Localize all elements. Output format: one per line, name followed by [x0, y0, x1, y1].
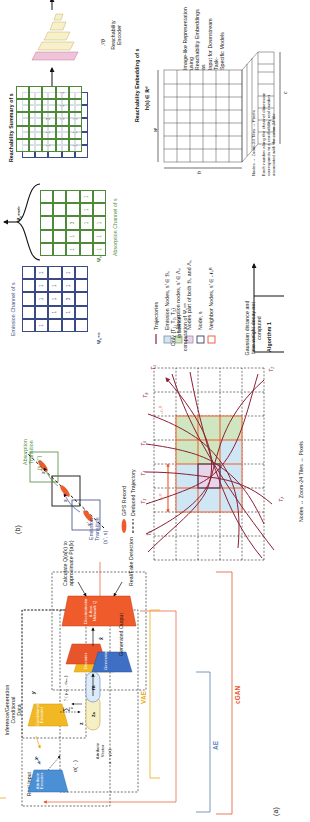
absorption-channel-cell: 1: [93, 243, 106, 256]
summary-absorption-cell: 3: [42, 112, 55, 125]
trajectory-label-T7: T₇: [278, 497, 284, 502]
brace-cgan-label: cGAN: [234, 686, 242, 704]
algorithm-1-label: Algorithm 1: [266, 322, 272, 352]
summary-absorption-cell: [42, 99, 55, 112]
summary-absorption-cell: [29, 139, 42, 152]
encoder-to-embedding-arrow: [46, 0, 60, 10]
summary-absorption-cell: 1: [69, 112, 82, 125]
summary-absorption-cell: [56, 139, 69, 152]
real-fake-detection-label: Real/Fake Detection: [128, 537, 134, 586]
only-trajectories-note: Only {T₁, T₂, T₃} influence computation …: [170, 298, 188, 356]
summary-absorption-cell: 1: [69, 139, 82, 152]
absorption-channel-cell: [80, 243, 93, 256]
calculate-q-label: Calculate Q(a|̂x) to approximate P(a|̂x): [62, 540, 74, 586]
nodes-equivalence-label: Nodes ↔ Zoom-24 Tiles ↔ Pixels: [298, 441, 304, 522]
node-s-label: s: [62, 499, 68, 502]
summary-absorption-cell: [69, 86, 82, 99]
x-hat-label: x̂: [98, 637, 104, 640]
trajectory-label-T4: T₄: [140, 471, 146, 476]
absorption-channel-cell: [53, 216, 66, 229]
trajectory-label-T2: T₂: [268, 367, 274, 372]
brace-vae-label: VAE: [140, 691, 148, 704]
emission-channel-cell: 1: [62, 279, 75, 292]
absorption-channel-cell: [93, 203, 106, 216]
emission-channel-cell: [75, 292, 88, 305]
figure-landscape-canvas: (a) Real Input Data x: [0, 0, 310, 822]
emission-channel-cell: 1: [48, 279, 61, 292]
emission-channel-cell: 1: [35, 319, 48, 332]
node-s-next-label: s'': [40, 469, 46, 474]
decoder-label: Decoder: [84, 652, 89, 670]
absorption-transition-label: Absorption Transition: [22, 434, 34, 470]
summary-absorption-cell: 1: [42, 126, 55, 139]
m-label: m: [90, 685, 96, 690]
trajectory-label-T8: T₈: [142, 392, 148, 398]
node-s-prev-label: s': [86, 522, 92, 526]
trajectory-label-T6: T₆: [146, 531, 152, 536]
summary-absorption-cell: 1: [69, 126, 82, 139]
emission-channel-cell: 1: [62, 266, 75, 279]
emission-channel-grid: 11111111311: [22, 266, 88, 332]
summary-absorption-cell: [56, 126, 69, 139]
discriminator-label: Discriminator & Aux. Network Q: [84, 598, 98, 624]
absorption-channel-cell: 3: [66, 216, 79, 229]
emission-channel-symbol: Ψₛᵉᵐ: [96, 333, 102, 344]
emission-channel-cell: [22, 266, 35, 279]
attribute-vector-eq: a ~ γ(x): [108, 749, 113, 764]
tensor-note-left: Nodes ↔ Zoom-24 Tiles ↔ Pixels: [252, 110, 257, 176]
trajectory-label-T1: T₁: [150, 365, 156, 370]
emission-channel-cell: 1: [48, 292, 61, 305]
summary-absorption-cell: [29, 126, 42, 139]
attribute-encoder-label: Attribute Encoder: [36, 768, 45, 794]
emission-channel-cell: [22, 292, 35, 305]
reachability-encoder-blocks: [26, 4, 96, 62]
inference-conditional-header: Inference/Generation Conditional Data: [4, 676, 22, 744]
summary-absorption-cell: [29, 99, 42, 112]
generated-output-label: Generated Output: [118, 613, 124, 656]
absorption-channel-cell: [80, 230, 93, 243]
emission-channel-cell: [35, 306, 48, 319]
summary-absorption-cell: [69, 99, 82, 112]
tensor-note-right: Each number along the channel dimension …: [262, 90, 276, 176]
absorption-channel-cell: 1: [66, 230, 79, 243]
summary-absorption-cell: [16, 86, 29, 99]
reachability-embedding-title: Reachability Embedding of s: [134, 48, 140, 122]
summary-absorption-cell: [16, 139, 29, 152]
emission-channel-cell: [22, 279, 35, 292]
tensor-h-label: h: [196, 171, 202, 174]
encoder-symbol: ℱθ: [100, 39, 106, 46]
absorption-transition-pair: (s, s''): [36, 456, 42, 470]
summary-absorption-cell: [29, 86, 42, 99]
absorption-channel-cell: 1: [80, 203, 93, 216]
emission-channel-cell: 1: [62, 306, 75, 319]
trajectory-label-T3: T₃: [140, 499, 146, 504]
absorption-channel-cell: [53, 203, 66, 216]
summary-absorption-cell: 1: [56, 99, 69, 112]
summary-absorption-cell: [16, 112, 29, 125]
legend-label-neighbor-nodes: Neighbor Nodes, s' ∈ 𝒩ₛᴿ: [208, 267, 214, 330]
emission-channel-cell: 3: [62, 292, 75, 305]
image-like-note: Image-like Representation using Reachabi…: [182, 6, 225, 70]
summary-absorption-cell: 1: [56, 112, 69, 125]
emission-channel-cell: [62, 319, 75, 332]
emission-channel-cell: [48, 319, 61, 332]
transitions-subdiagram: [18, 396, 128, 536]
reachability-encoder-label: Reachability Encoder: [110, 10, 122, 60]
neighborhood-label: 𝒩ₛᴿ: [160, 406, 165, 414]
sum-subscript: n: [70, 707, 75, 709]
absorption-channel-cell: [53, 230, 66, 243]
trajectory-label-T5: T₅: [140, 441, 146, 446]
summary-absorption-cell: [42, 86, 55, 99]
sigma-function-label: σ( · ): [72, 760, 78, 772]
emission-channel-cell: 1: [35, 266, 48, 279]
figure-frame: (a) Real Input Data x: [0, 0, 310, 822]
absorption-channel-cell: [66, 190, 79, 203]
emission-channel-cell: [75, 266, 88, 279]
absorption-channel-grid: 113111111: [40, 190, 106, 256]
attribute-vector-label: Attribute Vector: [96, 736, 106, 766]
trajectory-grid: [146, 354, 296, 564]
absorption-channel-cell: 1: [80, 190, 93, 203]
summary-absorption-cell: [16, 99, 29, 112]
absorption-channel-cell: 1: [80, 216, 93, 229]
channel-merge-brace: [0, 146, 46, 266]
